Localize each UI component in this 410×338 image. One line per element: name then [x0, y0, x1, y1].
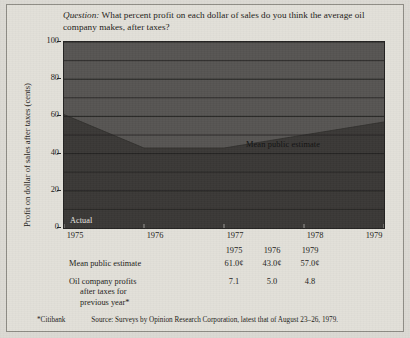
- data-table: 1975 1976 1979 Mean public estimate 61.0…: [69, 246, 329, 308]
- y-tick-mark: [57, 41, 61, 42]
- y-tick-label: 100: [33, 37, 59, 45]
- table-row-label: Mean public estimate: [69, 259, 215, 274]
- screenshot-page: Question: What percent profit on each do…: [0, 0, 410, 338]
- table-header-year: 1979: [291, 246, 329, 259]
- chart-plot-area: Actual Mean public estimate: [63, 41, 385, 229]
- y-axis-ticks: 100 80 60 40 20 0: [31, 41, 59, 227]
- footnote-citibank: *Citibank: [37, 316, 65, 324]
- y-tick-label: 20: [33, 186, 59, 194]
- table-cell-value: 57.0¢: [291, 259, 329, 274]
- table-row: Oil company profits after taxes for prev…: [69, 274, 329, 309]
- x-tick-label: 1975: [67, 231, 84, 240]
- table-row-label: Oil company profits after taxes for prev…: [69, 274, 215, 309]
- y-tick-mark: [57, 78, 61, 79]
- question-prefix: Question:: [63, 10, 99, 20]
- chart-svg: [64, 42, 384, 228]
- y-tick-mark: [57, 115, 61, 116]
- x-tick-label: 1979: [366, 231, 383, 240]
- question-text: Question: What percent profit on each do…: [63, 10, 393, 33]
- y-tick-label: 40: [33, 149, 59, 157]
- x-tick-label: 1978: [307, 231, 324, 240]
- table-header-blank: [69, 246, 215, 259]
- actual-annotation: Actual: [70, 216, 92, 225]
- x-tick-label: 1977: [227, 231, 244, 240]
- figure-footer: *Citibank Source: Surveys by Opinion Res…: [37, 316, 387, 324]
- x-tick-label: 1976: [147, 231, 164, 240]
- y-tick-mark: [57, 190, 61, 191]
- y-tick-label: 80: [33, 74, 59, 82]
- table-cell-value: 4.8: [291, 274, 329, 309]
- x-axis-ticks: 1975 1976 1977 1978 1979: [63, 229, 385, 243]
- footnote-source: Source: Surveys by Opinion Research Corp…: [91, 316, 387, 324]
- table-cell-value: 43.0¢: [253, 259, 291, 274]
- table-header-year: 1975: [215, 246, 253, 259]
- table-cell-value: 61.0¢: [215, 259, 253, 274]
- y-tick-label: 0: [33, 223, 59, 231]
- table-header-row: 1975 1976 1979: [69, 246, 329, 259]
- table-cell-value: 7.1: [215, 274, 253, 309]
- y-tick-mark: [57, 227, 61, 228]
- table-cell-value: 5.0: [253, 274, 291, 309]
- mean-public-estimate-annotation: Mean public estimate: [246, 140, 320, 149]
- table-row-label-line2: after taxes for: [69, 287, 209, 298]
- question-body: What percent profit on each dollar of sa…: [63, 10, 365, 32]
- table-header-year: 1976: [253, 246, 291, 259]
- summary-table: 1975 1976 1979 Mean public estimate 61.0…: [69, 246, 329, 308]
- table-row-label-line1: Oil company profits: [69, 277, 136, 286]
- table-row: Mean public estimate 61.0¢ 43.0¢ 57.0¢: [69, 259, 329, 274]
- y-tick-mark: [57, 153, 61, 154]
- y-tick-label: 60: [33, 111, 59, 119]
- figure-card: Question: What percent profit on each do…: [6, 4, 404, 332]
- table-row-label-line3: previous year*: [69, 298, 209, 309]
